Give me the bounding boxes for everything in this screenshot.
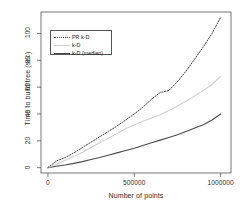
legend-item-kd: k-D bbox=[53, 42, 111, 49]
y-tick-label: 80 bbox=[24, 52, 31, 68]
x-axis-title: Number of points bbox=[41, 192, 231, 199]
chart-legend: PR k-D k-D k-D (median) bbox=[50, 30, 112, 55]
legend-label-kd: k-D bbox=[72, 42, 80, 48]
legend-swatch-kd-median bbox=[54, 53, 70, 55]
legend-swatch-pr-kd bbox=[54, 37, 70, 39]
y-tick-label: 0 bbox=[24, 159, 31, 175]
x-tick-label: 500000 bbox=[104, 179, 164, 186]
legend-item-kd-median: k-D (median) bbox=[53, 50, 111, 57]
legend-swatch-kd bbox=[54, 45, 70, 47]
legend-label-kd-median: k-D (median) bbox=[72, 50, 103, 56]
legend-item-pr-kd: PR k-D bbox=[53, 34, 111, 41]
chart-figure: Time to build tree (sec) Number of point… bbox=[0, 0, 247, 211]
series-line-k-d bbox=[48, 76, 221, 167]
x-tick-label: 1000000 bbox=[191, 179, 247, 186]
legend-label-pr-kd: PR k-D bbox=[72, 34, 89, 40]
y-tick-label: 40 bbox=[24, 105, 31, 121]
y-tick-label: 100 bbox=[24, 25, 31, 41]
y-tick-label: 60 bbox=[24, 79, 31, 95]
series-line-k-d-median bbox=[48, 114, 221, 168]
x-tick-label: 0 bbox=[18, 179, 78, 186]
y-tick-label: 20 bbox=[24, 132, 31, 148]
